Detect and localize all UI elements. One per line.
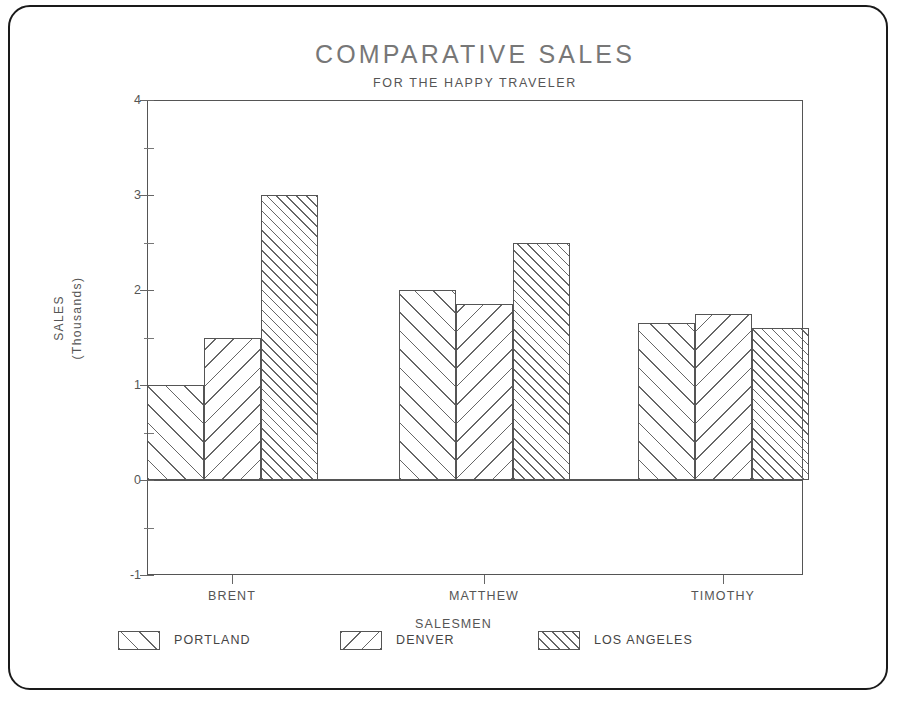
x-tick-mark bbox=[484, 575, 485, 584]
legend-label: DENVER bbox=[396, 633, 455, 647]
y-axis: -101234 bbox=[105, 100, 141, 575]
y-tick-label: 1 bbox=[111, 378, 141, 392]
bar-timothy-los-angeles bbox=[752, 328, 809, 480]
y-tick-mark bbox=[140, 100, 154, 101]
legend-swatch-icon bbox=[538, 631, 580, 650]
bar-chart: COMPARATIVE SALES FOR THE HAPPY TRAVELER… bbox=[0, 0, 907, 708]
chart-subtitle: FOR THE HAPPY TRAVELER bbox=[147, 76, 803, 90]
x-tick-mark bbox=[232, 575, 233, 584]
y-axis-title-line2: (Thousands) bbox=[68, 238, 86, 398]
y-tick-mark bbox=[140, 290, 154, 291]
bar-brent-denver bbox=[204, 338, 261, 481]
legend-label: LOS ANGELES bbox=[594, 633, 693, 647]
chart-title: COMPARATIVE SALES bbox=[147, 40, 803, 69]
legend-swatch-icon bbox=[340, 631, 382, 650]
y-tick-minor bbox=[144, 148, 154, 149]
y-tick-label: -1 bbox=[111, 568, 141, 582]
y-tick-minor bbox=[144, 243, 154, 244]
y-tick-mark bbox=[140, 195, 154, 196]
bar-matthew-denver bbox=[456, 304, 513, 480]
y-axis-title-line1: SALES bbox=[50, 238, 68, 398]
y-tick-mark bbox=[140, 480, 154, 481]
y-tick-minor bbox=[144, 338, 154, 339]
y-axis-title: SALES (Thousands) bbox=[50, 238, 86, 398]
x-tick-label: MATTHEW bbox=[449, 589, 519, 603]
y-tick-label: 4 bbox=[111, 93, 141, 107]
bar-timothy-portland bbox=[638, 323, 695, 480]
x-tick-label: BRENT bbox=[208, 589, 256, 603]
y-tick-label: 0 bbox=[111, 473, 141, 487]
bar-matthew-portland bbox=[399, 290, 456, 480]
bar-brent-los-angeles bbox=[261, 195, 318, 480]
chart-legend: PORTLANDDENVERLOS ANGELES bbox=[0, 628, 907, 662]
x-tick-label: TIMOTHY bbox=[691, 589, 755, 603]
legend-swatch-icon bbox=[118, 631, 160, 650]
legend-label: PORTLAND bbox=[174, 633, 251, 647]
bar-brent-portland bbox=[147, 385, 204, 480]
bar-timothy-denver bbox=[695, 314, 752, 480]
y-tick-label: 3 bbox=[111, 188, 141, 202]
y-tick-label: 2 bbox=[111, 283, 141, 297]
x-tick-mark bbox=[723, 575, 724, 584]
y-tick-mark bbox=[140, 575, 154, 576]
bar-matthew-los-angeles bbox=[513, 243, 570, 481]
y-tick-minor bbox=[144, 528, 154, 529]
